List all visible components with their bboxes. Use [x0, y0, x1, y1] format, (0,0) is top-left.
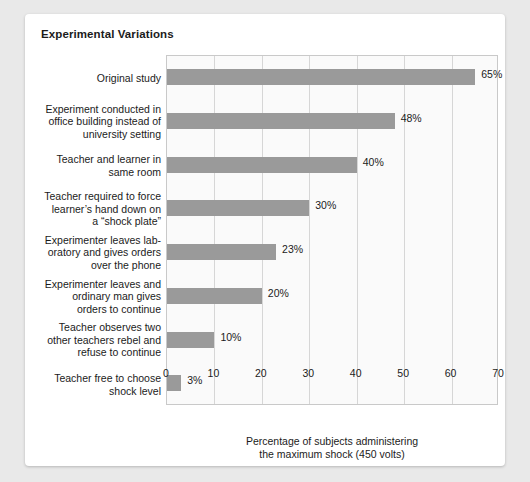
category-label: Experiment conducted inoffice building i… [1, 103, 161, 141]
bar-value-label: 23% [282, 243, 303, 255]
x-axis-title: Percentage of subjects administeringthe … [166, 435, 498, 461]
x-tick-label: 50 [397, 367, 409, 379]
bar-row: 10%Teacher observes twoother teachers re… [167, 319, 497, 363]
bar[interactable] [167, 200, 309, 216]
bar-value-label: 30% [315, 199, 336, 211]
bar-row: 40%Teacher and learner insame room [167, 144, 497, 188]
category-label: Experimenter leaves andordinary man give… [1, 278, 161, 316]
category-label: Teacher and learner insame room [1, 153, 161, 178]
category-label: Experimenter leaves lab-oratory and give… [1, 234, 161, 272]
bar-value-label: 10% [220, 331, 241, 343]
x-tick-label: 0 [163, 367, 169, 379]
x-tick-label: 30 [302, 367, 314, 379]
x-tick-label: 20 [255, 367, 267, 379]
x-tick-label: 40 [350, 367, 362, 379]
bar[interactable] [167, 157, 357, 173]
bar[interactable] [167, 113, 395, 129]
chart-title: Experimental Variations [41, 28, 174, 40]
bar-row: 30%Teacher required to forcelearner’s ha… [167, 187, 497, 231]
bar-row: 20%Experimenter leaves andordinary man g… [167, 275, 497, 319]
bar[interactable] [167, 69, 475, 85]
page-background: Experimental Variations 65%Original stud… [0, 0, 530, 482]
bar-value-label: 65% [481, 68, 502, 80]
bar[interactable] [167, 332, 214, 348]
bar-value-label: 40% [363, 156, 384, 168]
bar[interactable] [167, 288, 262, 304]
category-label: Original study [1, 72, 161, 85]
bar-row: 23%Experimenter leaves lab-oratory and g… [167, 231, 497, 275]
bar-value-label: 20% [268, 287, 289, 299]
plot-area: 65%Original study48%Experiment conducted… [166, 55, 498, 405]
chart-card: Experimental Variations 65%Original stud… [25, 14, 505, 466]
category-label: Teacher free to chooseshock level [1, 372, 161, 397]
x-tick-label: 60 [445, 367, 457, 379]
bar-row: 65%Original study [167, 56, 497, 100]
bar[interactable] [167, 244, 276, 260]
bar-value-label: 48% [401, 112, 422, 124]
bar-row: 48%Experiment conducted inoffice buildin… [167, 100, 497, 144]
bar-value-label: 3% [187, 374, 202, 386]
category-label: Teacher observes twoother teachers rebel… [1, 322, 161, 360]
x-tick-label: 10 [208, 367, 220, 379]
x-tick-label: 70 [492, 367, 504, 379]
bar[interactable] [167, 375, 181, 391]
category-label: Teacher required to forcelearner’s hand … [1, 190, 161, 228]
